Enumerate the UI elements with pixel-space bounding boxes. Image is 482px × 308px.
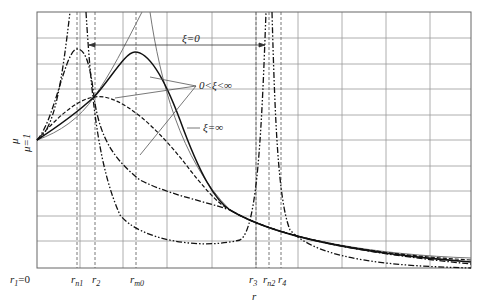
grid xyxy=(37,12,471,268)
tick-r4: r4 xyxy=(278,273,286,288)
y-axis-label: μ μ=1 xyxy=(8,134,32,153)
curve-xi-infinity xyxy=(37,12,142,140)
tick-r3: r3 xyxy=(249,273,257,288)
xi-zero-arrow xyxy=(89,43,265,47)
x-axis-label: r xyxy=(252,290,257,302)
tick-r1: r1=0 xyxy=(10,273,30,288)
tick-rm0: rm0 xyxy=(130,273,144,288)
y-label-mu: μ xyxy=(8,138,20,145)
y-label-mu1: μ=1 xyxy=(20,134,32,153)
label-xi-infinity: ξ=∞ xyxy=(203,121,223,134)
curve-dashed xyxy=(37,97,471,260)
tick-r2: r2 xyxy=(92,273,100,288)
tick-rn1: rn1 xyxy=(71,273,83,288)
label-xi-zero: ξ=0 xyxy=(182,32,200,45)
curve-dashdot-peak-rn1 xyxy=(37,49,471,264)
x-tick-labels: r1=0 rn1 r2 rm0 r3 rn2 r4 xyxy=(10,273,286,288)
curve-xi-zero-mid xyxy=(86,12,266,244)
tick-rn2: rn2 xyxy=(263,273,275,288)
response-curve-diagram: ξ=0 0<ξ<∞ ξ=∞ μ μ=1 r1=0 rn1 r2 rm0 r3 r… xyxy=(0,0,482,308)
curve-solid-peak-rm0 xyxy=(37,52,471,262)
curve-xi-infinity-tail xyxy=(150,12,471,258)
label-xi-mid: 0<ξ<∞ xyxy=(199,79,232,92)
